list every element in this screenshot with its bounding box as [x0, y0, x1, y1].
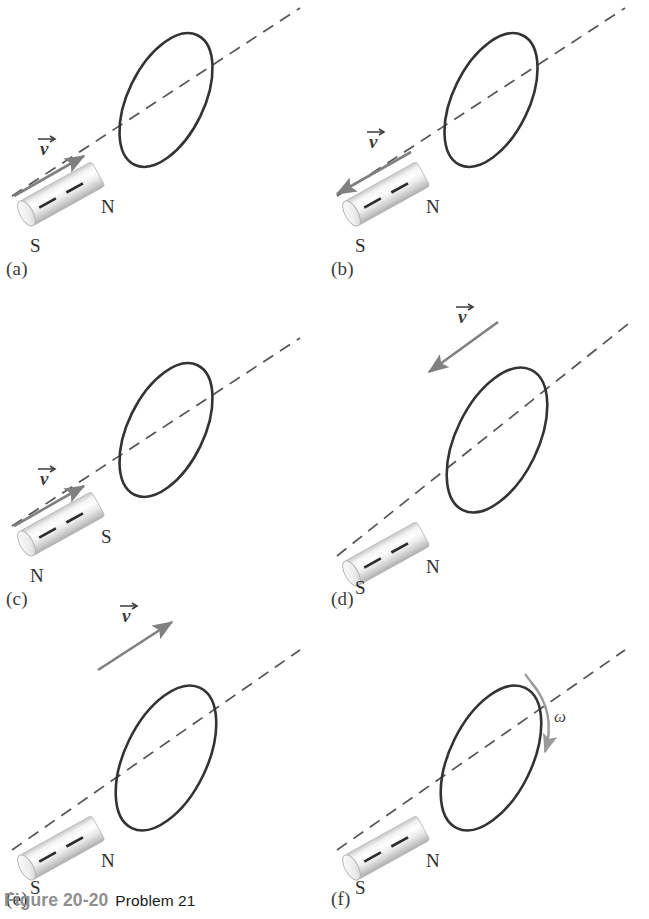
bar-magnet	[339, 521, 430, 588]
axis-dashed-line	[12, 650, 300, 850]
velocity-symbol: v	[458, 306, 467, 327]
bar-magnet	[339, 161, 430, 228]
pole-label-near: S	[355, 577, 366, 598]
panel-f: ω N S (f)	[325, 600, 649, 900]
pole-label-near: N	[30, 565, 44, 586]
panel-c-diagram: v S N	[0, 300, 324, 600]
velocity-symbol: v	[369, 131, 378, 152]
velocity-symbol: v	[40, 468, 49, 489]
panel-label-b: (b)	[331, 258, 354, 280]
panel-e: v N S (e)	[0, 600, 324, 900]
conducting-loop	[100, 19, 231, 182]
pole-label-far: N	[426, 556, 440, 577]
velocity-label: v	[38, 466, 55, 489]
velocity-label: v	[367, 129, 384, 152]
angular-velocity-indicator: ω	[525, 674, 566, 752]
velocity-arrow	[98, 622, 172, 670]
panel-a-diagram: v N S	[0, 0, 324, 300]
figure-number: Figure 20-20	[4, 890, 108, 910]
conducting-loop	[100, 349, 231, 512]
bar-magnet	[14, 815, 105, 882]
figure-caption: Figure 20-20Problem 21	[4, 890, 196, 911]
panel-e-diagram: v N S	[0, 600, 324, 900]
velocity-arrow	[429, 322, 498, 372]
panel-f-diagram: ω N S	[325, 600, 649, 900]
velocity-label: v	[120, 603, 137, 626]
figure-20-20: v N S (a)	[0, 0, 649, 919]
axis-dashed-line	[337, 320, 633, 556]
pole-label-near: S	[355, 877, 366, 898]
panel-d: v N S (d)	[325, 300, 649, 600]
bar-magnet	[14, 161, 105, 228]
bar-magnet	[14, 491, 105, 558]
axis-dashed-line	[12, 338, 300, 526]
velocity-label: v	[38, 136, 55, 159]
panel-b: v N S (b)	[325, 0, 649, 300]
axis-dashed-line	[337, 8, 625, 196]
pole-label-near: S	[30, 235, 41, 256]
panel-label-f: (f)	[331, 888, 351, 910]
problem-reference: Problem 21	[115, 892, 195, 909]
velocity-symbol: v	[40, 138, 49, 159]
panel-c: v S N (c)	[0, 300, 324, 600]
bar-magnet	[339, 815, 430, 882]
velocity-symbol: v	[122, 605, 131, 626]
panel-label-a: (a)	[6, 258, 28, 280]
conducting-loop	[95, 670, 237, 846]
panel-b-diagram: v N S	[325, 0, 649, 300]
conducting-loop	[426, 352, 568, 528]
axis-dashed-line	[12, 8, 300, 196]
conducting-loop	[425, 19, 556, 182]
panel-a: v N S (a)	[0, 0, 324, 300]
omega-symbol: ω	[554, 707, 566, 726]
pole-label-near: S	[355, 235, 366, 256]
panel-d-diagram: v N S	[325, 300, 649, 600]
pole-label-far: N	[101, 850, 115, 871]
velocity-label: v	[456, 304, 473, 327]
pole-label-far: N	[426, 850, 440, 871]
axis-dashed-line	[337, 650, 625, 850]
pole-label-far: S	[101, 526, 112, 547]
pole-label-far: N	[426, 196, 440, 217]
pole-label-far: N	[101, 196, 115, 217]
